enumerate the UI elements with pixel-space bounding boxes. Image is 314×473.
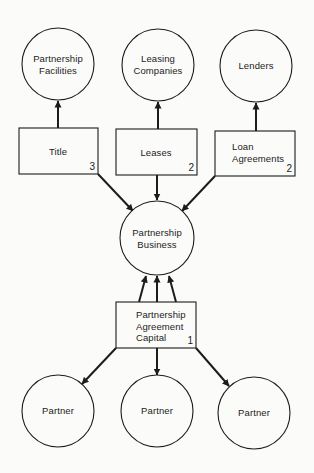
label-title: Title [49,146,67,157]
arrow-agreement-to-business-1 [139,276,146,302]
arrow-agreement-to-partner-1 [82,348,116,384]
label-partnership-business-1: Partnership [132,227,182,238]
label-partnership-facilities-1: Partnership [33,53,83,64]
arrow-agreement-to-business-3 [169,276,176,302]
label-capital: Capital [136,332,166,343]
label-lenders: Lenders [238,60,273,71]
label-partnership-business-2: Business [137,239,176,250]
label-leases: Leases [140,147,171,158]
label-leasing-companies-2: Companies [134,65,183,76]
circle-partnership-facilities [22,28,94,100]
number-leases: 2 [188,162,194,173]
circle-partnership-business [120,201,194,275]
label-partner-3: Partner [238,407,270,418]
label-agreements: Agreements [232,153,284,164]
arrow-title-to-business [98,174,133,211]
partnership-flow-diagram: Partnership Facilities Leasing Companies… [0,0,314,473]
label-partnership-facilities-2: Facilities [39,65,77,76]
label-partnership: Partnership [136,309,186,320]
number-title: 3 [89,161,95,172]
label-agreement: Agreement [136,321,184,332]
label-partner-2: Partner [141,405,173,416]
arrow-loans-to-business [182,176,215,211]
number-loan-agreements: 2 [286,163,292,174]
label-partner-1: Partner [42,405,74,416]
arrow-agreement-to-partner-3 [196,348,229,386]
number-partnership-agreement: 1 [187,335,193,346]
label-loan: Loan [232,141,254,152]
label-leasing-companies-1: Leasing [141,53,175,64]
